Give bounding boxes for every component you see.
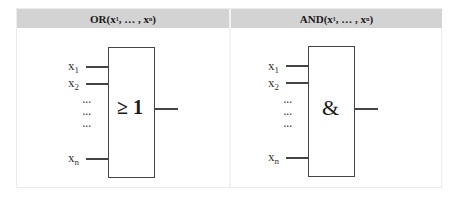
or-input-line-x2 <box>86 83 108 85</box>
and-header: AND(x1, … , xn) <box>231 9 442 28</box>
or-input-line-xn <box>86 158 108 160</box>
or-input-label-x1: x1 <box>68 59 79 75</box>
or-output-line <box>155 108 178 110</box>
and-input-line-x2 <box>286 82 308 84</box>
and-output-line <box>355 108 378 110</box>
or-gate-symbol: ≥ 1 <box>117 97 143 117</box>
and-ellipsis-3: ··· <box>283 121 291 133</box>
or-header-mid: , … , x <box>119 13 149 25</box>
or-header-suffix: ) <box>152 13 156 25</box>
and-input-line-x1 <box>286 65 308 67</box>
and-input-label-x2: x2 <box>268 76 279 92</box>
and-header-mid: , … , x <box>336 13 366 25</box>
or-header-prefix: OR(x <box>90 13 116 25</box>
and-input-label-xn: xn <box>268 150 279 166</box>
or-input-line-x1 <box>86 66 108 68</box>
or-input-label-xn: xn <box>68 151 79 167</box>
and-input-line-xn <box>286 157 308 159</box>
or-ellipsis-3: ··· <box>82 121 90 133</box>
and-header-prefix: AND(x <box>300 13 333 25</box>
and-gate-symbol: & <box>322 97 339 119</box>
or-header: OR(x1, … , xn) <box>17 9 229 28</box>
and-input-label-x1: x1 <box>268 59 279 75</box>
or-input-label-x2: x2 <box>68 76 79 92</box>
column-divider <box>229 9 231 187</box>
gate-comparison-table: OR(x1, … , xn) AND(x1, … , xn) <box>16 8 442 188</box>
and-header-suffix: ) <box>369 13 373 25</box>
